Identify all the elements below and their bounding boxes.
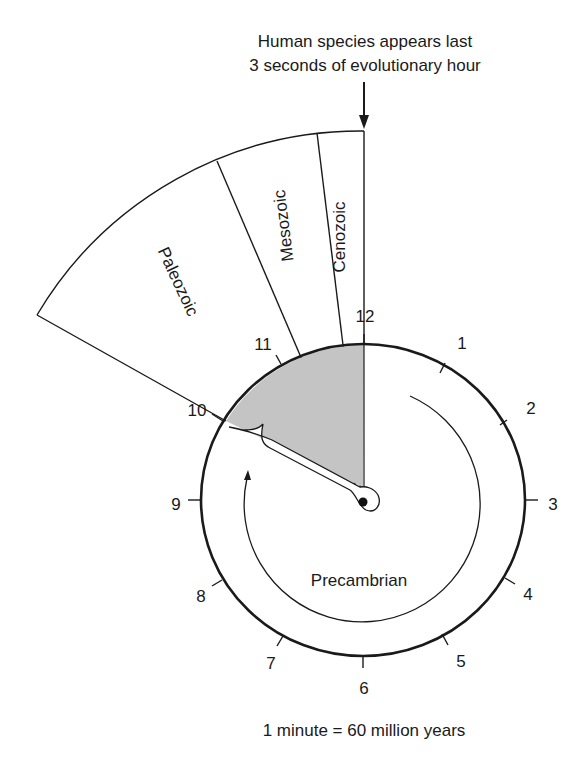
hour-label-1: 1	[457, 334, 466, 353]
hour-label-6: 6	[359, 679, 368, 698]
shaded-wedge	[226, 345, 364, 487]
hour-label-12: 12	[356, 307, 375, 326]
era-label-precambrian: Precambrian	[311, 571, 407, 590]
era-label-mesozoic: Mesozoic	[270, 188, 298, 262]
down-arrow-icon	[359, 82, 369, 129]
era-label-paleozoic: Paleozoic	[154, 244, 203, 319]
title-line-1: Human species appears last	[258, 32, 473, 51]
scale-caption: 1 minute = 60 million years	[263, 721, 466, 740]
title-line-2: 3 seconds of evolutionary hour	[249, 56, 481, 75]
hour-label-4: 4	[523, 585, 532, 604]
hour-label-2: 2	[526, 399, 535, 418]
hour-label-9: 9	[171, 495, 180, 514]
geologic-clock-diagram: Human species appears last 3 seconds of …	[0, 0, 586, 761]
fan-outer-arc	[37, 131, 364, 315]
hour-label-3: 3	[548, 495, 557, 514]
center-pivot-icon	[359, 498, 368, 507]
hour-label-7: 7	[266, 654, 275, 673]
hour-label-10: 10	[188, 401, 207, 420]
era-label-cenozoic: Cenozoic	[330, 201, 349, 272]
hour-label-5: 5	[456, 652, 465, 671]
hour-label-11: 11	[254, 335, 272, 354]
hour-label-8: 8	[196, 587, 205, 606]
